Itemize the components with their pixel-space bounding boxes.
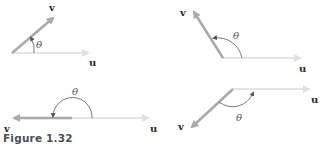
theta-label: θ <box>72 86 78 97</box>
u-label: u <box>89 57 96 68</box>
vector-angle-diagram: v u θ v u θ v u θ v u θ <box>0 0 323 148</box>
angle-arc <box>219 93 253 107</box>
v-label: v <box>177 121 185 132</box>
figure-caption: Figure 1.32 <box>3 132 73 144</box>
v-vector <box>194 12 223 58</box>
panel-below: v u θ <box>177 89 318 132</box>
panel-obtuse: v u θ <box>179 7 306 74</box>
v-vector <box>12 18 53 53</box>
theta-label: θ <box>36 39 42 50</box>
angle-arc <box>31 38 34 53</box>
u-label: u <box>150 123 157 134</box>
panel-acute: v u θ <box>12 2 96 68</box>
v-label: v <box>48 2 56 13</box>
u-label: u <box>299 63 306 74</box>
u-label: u <box>311 94 318 105</box>
v-label: v <box>179 7 187 18</box>
panel-straight: v u θ <box>3 86 157 134</box>
theta-label: θ <box>236 112 242 123</box>
v-vector <box>192 89 233 127</box>
angle-arc <box>53 97 92 118</box>
theta-label: θ <box>233 30 239 41</box>
